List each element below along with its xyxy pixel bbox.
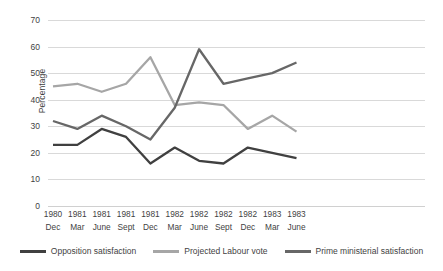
legend-swatch-icon [285, 250, 311, 253]
legend-item[interactable]: Prime ministerial satisfaction [285, 246, 424, 256]
x-tick-label: 1982Mar [166, 208, 184, 233]
x-tick-label: 1982Dec [239, 208, 257, 233]
x-tick-month: Dec [239, 221, 257, 234]
x-tick-label: 1983June [287, 208, 305, 233]
y-tick-label: 10 [31, 174, 40, 184]
y-tick-label: 70 [31, 15, 40, 25]
x-tick-month: Mar [68, 221, 86, 234]
x-tick-year: 1980 [44, 208, 62, 221]
legend: Opposition satisfactionProjected Labour … [0, 246, 443, 256]
x-tick-year: 1981 [92, 208, 110, 221]
x-tick-year: 1981 [68, 208, 86, 221]
x-tick-month: Sept [117, 221, 135, 234]
legend-label: Opposition satisfaction [51, 246, 137, 256]
x-tick-month: Mar [166, 221, 184, 234]
plot-area [48, 20, 425, 206]
legend-item[interactable]: Projected Labour vote [153, 246, 267, 256]
x-tick-label: 1983Mar [263, 208, 281, 233]
x-tick-year: 1982 [190, 208, 208, 221]
x-tick-year: 1983 [287, 208, 305, 221]
x-tick-label: 1982Sept [214, 208, 232, 233]
x-tick-month: Dec [44, 221, 62, 234]
x-tick-month: June [190, 221, 208, 234]
x-tick-year: 1981 [117, 208, 135, 221]
x-axis-tick-labels: 1980Dec1981Mar1981June1981Sept1981Dec198… [48, 208, 425, 242]
y-tick-label: 20 [31, 148, 40, 158]
legend-swatch-icon [153, 250, 179, 253]
x-tick-year: 1982 [214, 208, 232, 221]
legend-label: Projected Labour vote [184, 246, 267, 256]
legend-swatch-icon [20, 250, 46, 253]
series-line [53, 57, 297, 131]
x-tick-label: 1981Mar [68, 208, 86, 233]
y-tick-label: 30 [31, 121, 40, 131]
series-lines [48, 20, 425, 206]
legend-item[interactable]: Opposition satisfaction [20, 246, 137, 256]
y-tick-label: 0 [35, 201, 40, 211]
x-tick-label: 1980Dec [44, 208, 62, 233]
y-tick-label: 40 [31, 95, 40, 105]
x-tick-month: June [287, 221, 305, 234]
x-tick-month: Sept [214, 221, 232, 234]
x-tick-year: 1983 [263, 208, 281, 221]
x-tick-month: June [92, 221, 110, 234]
x-tick-year: 1982 [239, 208, 257, 221]
series-line [53, 129, 297, 164]
series-line [53, 49, 297, 139]
x-tick-month: Dec [141, 221, 159, 234]
y-tick-label: 50 [31, 68, 40, 78]
legend-label: Prime ministerial satisfaction [316, 246, 424, 256]
y-axis-tick-labels: 010203040506070 [0, 20, 44, 206]
x-tick-label: 1982June [190, 208, 208, 233]
x-tick-year: 1981 [141, 208, 159, 221]
line-chart: Percentage 010203040506070 1980Dec1981Ma… [0, 0, 443, 271]
x-tick-month: Mar [263, 221, 281, 234]
x-tick-year: 1982 [166, 208, 184, 221]
y-tick-label: 60 [31, 42, 40, 52]
gridline-0 [48, 206, 425, 207]
x-tick-label: 1981Sept [117, 208, 135, 233]
x-tick-label: 1981Dec [141, 208, 159, 233]
x-tick-label: 1981June [92, 208, 110, 233]
